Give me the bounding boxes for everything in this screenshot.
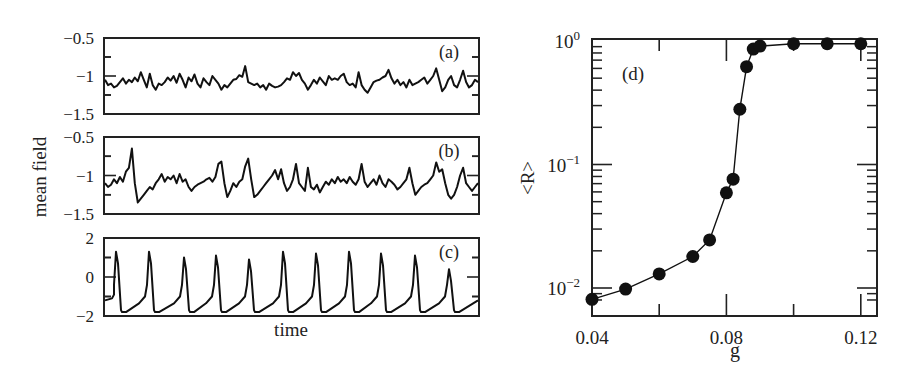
panel-d: 0.040.080.1210−210−1100(d) bbox=[547, 28, 877, 348]
data-point-marker bbox=[754, 40, 767, 53]
data-point-marker bbox=[720, 186, 733, 199]
panel-label: (d) bbox=[622, 63, 644, 85]
panel-c: −202(c) bbox=[76, 229, 479, 326]
panel-label: (c) bbox=[439, 242, 459, 263]
right-y-axis-label: <R> bbox=[517, 161, 538, 195]
series-line bbox=[105, 252, 478, 312]
data-point-marker bbox=[586, 293, 599, 306]
y-tick-label: 10−1 bbox=[547, 152, 580, 176]
y-tick-label: −2 bbox=[76, 307, 94, 326]
y-tick-label: −1.5 bbox=[63, 205, 94, 224]
data-point-marker bbox=[740, 60, 753, 73]
data-point-marker bbox=[854, 37, 867, 50]
data-point-marker bbox=[733, 103, 746, 116]
left-y-axis-label: mean field bbox=[29, 136, 50, 217]
right-x-axis-label: g bbox=[730, 339, 740, 362]
data-point-marker bbox=[821, 37, 834, 50]
y-tick-label: 10−2 bbox=[547, 275, 580, 299]
data-point-marker bbox=[619, 283, 632, 296]
y-tick-label: 2 bbox=[86, 229, 95, 248]
panel-a: −1.5−1−0.5(a) bbox=[63, 29, 479, 124]
data-point-marker bbox=[787, 37, 800, 50]
y-tick-label: −1 bbox=[76, 167, 94, 186]
panel-label: (b) bbox=[439, 141, 460, 162]
y-tick-label: −1 bbox=[76, 67, 94, 86]
figure: −1.5−1−0.5(a) −1.5−1−0.5(b) −202(c) 0.04… bbox=[0, 0, 901, 389]
plot-frame bbox=[104, 238, 479, 316]
series-line bbox=[105, 149, 478, 203]
data-point-marker bbox=[703, 233, 716, 246]
y-tick-label: −0.5 bbox=[63, 128, 94, 147]
x-tick-label: 0.04 bbox=[575, 327, 609, 348]
x-tick-label: 0.12 bbox=[844, 327, 877, 348]
y-tick-label: −1.5 bbox=[63, 105, 94, 124]
series-line bbox=[105, 66, 478, 93]
left-x-axis-label: time bbox=[274, 319, 308, 340]
data-point-marker bbox=[653, 267, 666, 280]
data-point-marker bbox=[727, 173, 740, 186]
panel-b: −1.5−1−0.5(b) bbox=[63, 128, 479, 224]
panel-label: (a) bbox=[439, 42, 459, 63]
y-tick-label: −0.5 bbox=[63, 29, 94, 48]
y-tick-label: 100 bbox=[555, 28, 581, 52]
data-point-marker bbox=[686, 250, 699, 263]
y-tick-label: 0 bbox=[86, 268, 95, 287]
